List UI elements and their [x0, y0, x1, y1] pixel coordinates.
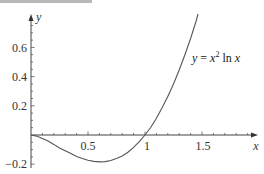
y-axis-label: y — [35, 10, 42, 24]
y-tick-label: 0.6 — [12, 41, 27, 55]
y-tick-label: 0.2 — [12, 99, 27, 113]
x-tick-label: 1.5 — [196, 139, 211, 153]
y-axis-arrow-icon — [29, 14, 34, 21]
y-tick-label: −0.2 — [5, 157, 27, 171]
x-axis-label: x — [252, 139, 259, 153]
y-tick-label: 0.4 — [12, 70, 27, 84]
curve-label: y = x2 ln x — [191, 50, 241, 65]
chart-svg: 0.5 1 1.5 x 0.6 0 — [0, 0, 264, 174]
y-axis: 0.6 0.4 0.2 −0.2 y — [5, 10, 42, 171]
x-tick-label: 1 — [144, 139, 150, 153]
x-axis-arrow-icon — [251, 133, 258, 138]
curve-x2-lnx — [31, 14, 198, 162]
x-tick-label: 0.5 — [81, 139, 96, 153]
